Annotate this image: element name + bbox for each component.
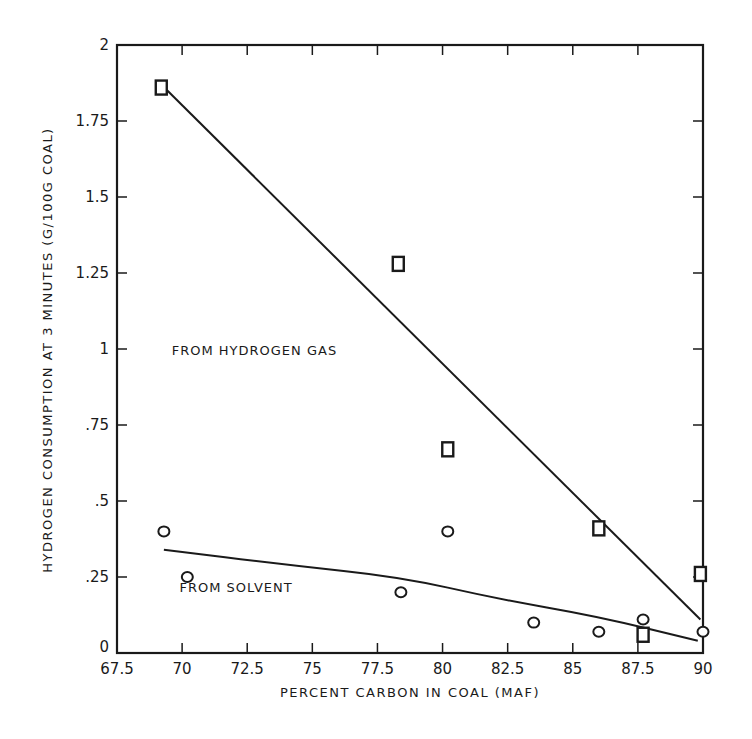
y-tick-label: 0 (99, 638, 109, 656)
square-marker (156, 81, 167, 95)
circle-marker (395, 587, 406, 597)
circle-marker (638, 615, 649, 625)
circle-marker (528, 618, 539, 628)
annotation-solvent: FROM SOLVENT (180, 580, 293, 595)
y-tick-label: .25 (85, 568, 109, 586)
y-tick-label: 1.75 (76, 112, 109, 130)
circle-marker (158, 526, 169, 536)
square-marker (695, 567, 706, 581)
x-tick-label: 85 (563, 660, 582, 678)
x-tick-label: 70 (173, 660, 192, 678)
data-markers (156, 81, 709, 642)
y-tick-label: 1 (99, 340, 109, 358)
square-marker (393, 257, 404, 271)
x-tick-label: 87.5 (621, 660, 654, 678)
square-marker (638, 628, 649, 642)
x-tick-label: 82.5 (491, 660, 524, 678)
circle-marker (593, 627, 604, 637)
x-axis-title: PERCENT CARBON IN COAL (MAF) (280, 685, 540, 700)
x-tick-label: 77.5 (361, 660, 394, 678)
y-tick-label: .75 (85, 416, 109, 434)
x-tick-label: 90 (693, 660, 712, 678)
x-tick-label: 75 (303, 660, 322, 678)
y-axis-ticks: 0.25.5.7511.251.51.752 (76, 36, 703, 656)
y-axis-title: HYDROGEN CONSUMPTION AT 3 MINUTES (G/100… (40, 127, 55, 572)
x-tick-label: 67.5 (100, 660, 133, 678)
y-tick-label: .5 (95, 492, 109, 510)
fit-lines (161, 85, 700, 641)
annotation-hydrogen-gas: FROM HYDROGEN GAS (172, 343, 337, 358)
circle-marker (442, 526, 453, 536)
chart-figure: 67.57072.57577.58082.58587.590 0.25.5.75… (0, 0, 752, 739)
y-tick-label: 2 (99, 36, 109, 54)
fit-line-solvent (164, 550, 698, 641)
y-tick-label: 1.5 (85, 188, 109, 206)
circle-marker (698, 627, 709, 637)
y-tick-label: 1.25 (76, 264, 109, 282)
square-marker (442, 442, 453, 456)
square-marker (593, 521, 604, 535)
x-tick-label: 72.5 (231, 660, 264, 678)
x-tick-label: 80 (433, 660, 452, 678)
